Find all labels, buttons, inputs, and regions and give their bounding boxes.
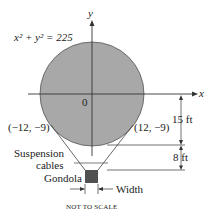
width-label: Width [116, 184, 143, 195]
gondola [85, 170, 98, 183]
dim-arrow-down-icon [179, 140, 183, 145]
y-axis-label: y [88, 8, 93, 19]
dim-8ft-label: 8 ft [173, 152, 188, 163]
width-arrow-right-icon [80, 187, 85, 191]
width-arrow-left-icon [98, 187, 103, 191]
cables-label-line2: cables [36, 160, 63, 171]
y-axis-arrow-icon [90, 20, 95, 26]
dim-15ft-label: 15 ft [172, 114, 192, 125]
gondola-label: Gondola [44, 173, 82, 184]
cables-label-line1: Suspension [14, 148, 64, 159]
dim-arrow-up-icon [179, 146, 183, 151]
origin-label: 0 [82, 97, 88, 108]
dim-arrow-up-icon [179, 95, 183, 100]
point-right-label: (12, −9) [134, 122, 170, 133]
not-to-scale-note: NOT TO SCALE [66, 204, 117, 211]
equation-label: x² + y² = 225 [14, 32, 73, 43]
point-left-label: (−12, −9) [8, 122, 50, 133]
dim-arrow-down-icon [179, 166, 183, 171]
x-axis-arrow-icon [192, 92, 198, 97]
x-axis-label: x [199, 88, 204, 99]
